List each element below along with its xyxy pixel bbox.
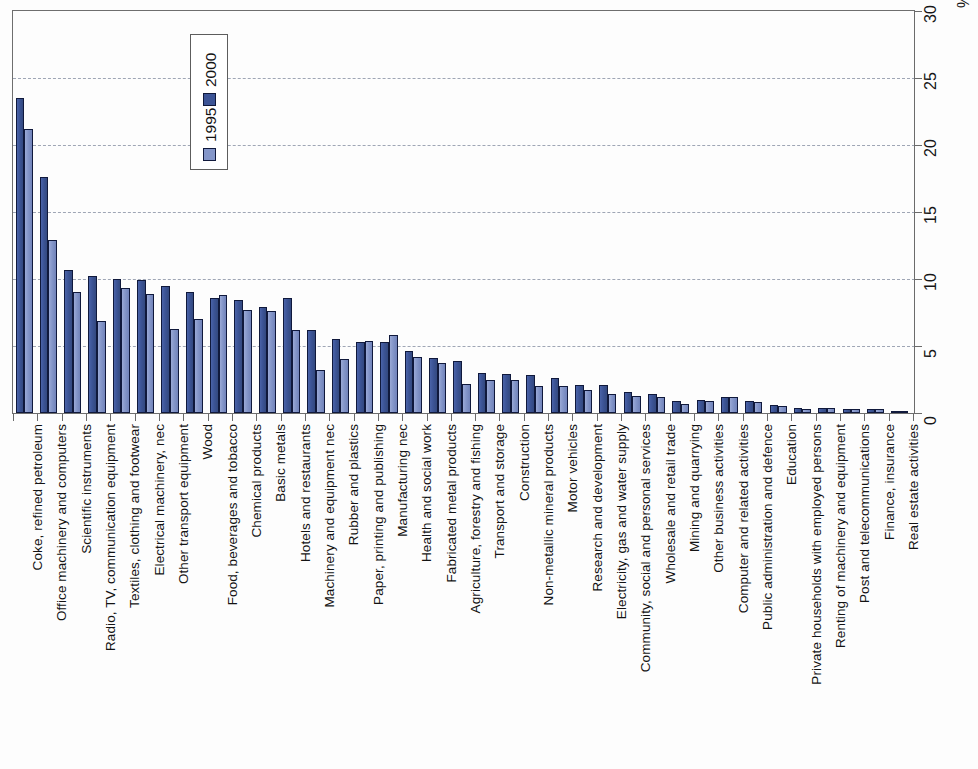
bar-1995 <box>438 363 447 413</box>
bar-2000 <box>356 342 365 413</box>
bar-1995 <box>389 335 398 413</box>
bar-1995 <box>292 330 301 413</box>
bar-1995 <box>535 386 544 413</box>
bar-1995 <box>365 341 374 413</box>
bar-group <box>621 11 645 413</box>
category-label: Renting of machinery and equipment <box>833 424 848 648</box>
bar-group <box>354 11 378 413</box>
category-label: Public administration and defence <box>760 424 775 630</box>
category-label: Hotels and restaurants <box>298 424 313 562</box>
value-tick-label: 10 <box>922 245 940 291</box>
bar-1995 <box>827 408 836 413</box>
category-label: Other business activities <box>711 424 726 573</box>
category-tick <box>305 414 306 421</box>
bar-group <box>451 11 475 413</box>
bar-group <box>110 11 134 413</box>
bar-1995 <box>657 397 666 413</box>
bar-group <box>840 11 864 413</box>
category-label: Mining and quarrying <box>687 424 702 552</box>
category-label: Agriculture, forestry and fishing <box>468 424 483 613</box>
bar-2000 <box>64 270 73 413</box>
category-label: Radio, TV, communication equipment <box>103 424 118 651</box>
bar-1995 <box>754 402 763 413</box>
value-tick <box>914 413 922 414</box>
category-label: Office machinery and computers <box>54 424 69 621</box>
value-tick-label: 5 <box>922 312 940 358</box>
bar-group <box>524 11 548 413</box>
bar-group <box>135 11 159 413</box>
bar-2000 <box>234 300 243 413</box>
category-label: Scientific instruments <box>79 424 94 554</box>
category-tick <box>840 414 841 421</box>
value-tick-label: 20 <box>922 111 940 157</box>
chart-legend: 2000 1995 <box>190 34 228 170</box>
category-tick <box>183 414 184 421</box>
category-tick <box>402 414 403 421</box>
bar-2000 <box>478 373 487 413</box>
bar-2000 <box>429 358 438 413</box>
category-tick <box>232 414 233 421</box>
bar-1995 <box>243 310 252 413</box>
value-tick <box>914 212 922 213</box>
bar-2000 <box>40 177 49 413</box>
bar-group <box>256 11 280 413</box>
bar-1995 <box>511 380 520 414</box>
bar-group <box>743 11 767 413</box>
category-label: Electricity, gas and water supply <box>614 424 629 619</box>
bar-group <box>670 11 694 413</box>
bar-2000 <box>721 397 730 413</box>
bar-group <box>281 11 305 413</box>
category-label: Non-metallic mineral products <box>541 424 556 605</box>
category-tick <box>499 414 500 421</box>
category-label: Electrical machinery, nec <box>152 424 167 576</box>
bar-1995 <box>584 390 593 413</box>
category-tick <box>645 414 646 421</box>
bar-1995 <box>802 409 811 413</box>
bar-group <box>378 11 402 413</box>
category-label: Food, beverages and tobacco <box>225 424 240 605</box>
category-tick <box>208 414 209 421</box>
bar-1995 <box>875 409 884 413</box>
category-tick <box>159 414 160 421</box>
category-tick <box>110 414 111 421</box>
bar-group <box>232 11 256 413</box>
value-tick-label: 25 <box>922 44 940 90</box>
bar-1995 <box>851 409 860 413</box>
category-label: Construction <box>517 424 532 501</box>
bar-1995 <box>121 288 130 413</box>
bar-2000 <box>891 411 900 413</box>
bar-2000 <box>88 276 97 413</box>
bar-group <box>402 11 426 413</box>
bar-2000 <box>113 279 122 413</box>
bar-1995 <box>608 394 617 413</box>
bar-2000 <box>818 408 827 413</box>
bar-group <box>645 11 669 413</box>
category-tick <box>451 414 452 421</box>
bar-group <box>37 11 61 413</box>
bar-group <box>816 11 840 413</box>
category-label: Wood <box>200 424 215 459</box>
bar-2000 <box>332 339 341 413</box>
bar-2000 <box>137 280 146 413</box>
bar-2000 <box>599 385 608 413</box>
category-tick <box>86 414 87 421</box>
bar-2000 <box>210 298 219 413</box>
category-tick <box>281 414 282 421</box>
bar-1995 <box>146 294 155 413</box>
bar-2000 <box>502 374 511 413</box>
bar-2000 <box>526 375 535 413</box>
category-label: Research and development <box>590 424 605 592</box>
axis-unit-label: % <box>955 0 973 8</box>
bar-1995 <box>681 404 690 413</box>
category-label: Manufacturing nec <box>395 424 410 537</box>
bar-1995 <box>97 321 106 413</box>
bar-2000 <box>380 342 389 413</box>
bar-group <box>572 11 596 413</box>
category-tick <box>864 414 865 421</box>
bar-1995 <box>219 295 228 413</box>
bar-group <box>329 11 353 413</box>
bar-1995 <box>486 380 495 414</box>
value-tick <box>914 11 922 12</box>
category-tick <box>378 414 379 421</box>
category-label: Machinery and equipment nec <box>322 424 337 608</box>
